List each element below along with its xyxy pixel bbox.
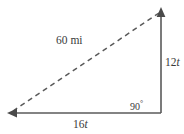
triangle-diagram-svg — [0, 0, 184, 134]
vertical-leg-variable: t — [177, 56, 180, 68]
horizontal-leg-label: 16t — [73, 119, 88, 131]
vertical-leg-number: 12 — [165, 56, 177, 68]
degree-symbol-icon: ° — [140, 99, 143, 108]
hypotenuse-dashed-line — [13, 13, 159, 111]
hypotenuse-label: 60 mi — [56, 35, 83, 47]
horizontal-leg-variable: t — [85, 118, 88, 130]
vertical-leg-label: 12t — [165, 57, 180, 69]
right-angle-value: 90 — [130, 101, 140, 112]
right-angle-label: 90° — [130, 100, 143, 112]
left-arrowhead-icon — [7, 109, 17, 118]
horizontal-leg-number: 16 — [73, 118, 85, 130]
right-triangle-figure: 60 mi 12t 16t 90° — [0, 0, 184, 134]
up-arrowhead-icon — [157, 7, 166, 17]
